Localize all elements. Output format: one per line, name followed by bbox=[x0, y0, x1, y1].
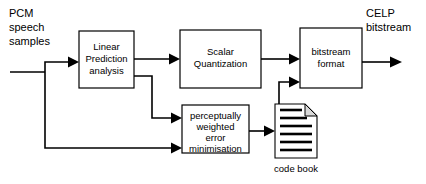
code-book-caption: code book bbox=[274, 163, 318, 174]
input-label: PCM speech samples bbox=[9, 7, 50, 47]
block-bitstream-format[interactable]: bitstream format bbox=[300, 28, 362, 88]
arrowhead-bitstream-out bbox=[390, 57, 402, 68]
block-pwem-line-3: error bbox=[205, 132, 225, 143]
block-pwem-line-2: weighted bbox=[195, 121, 234, 132]
input-label-line-3: samples bbox=[9, 35, 50, 47]
arrowhead-scalar-to-bitstream bbox=[289, 54, 300, 65]
connector-lp-to-pwem bbox=[134, 76, 171, 118]
block-pwem-line-1: perceptually bbox=[190, 110, 241, 121]
document-fold-corner-icon bbox=[305, 104, 317, 116]
block-scalar-quantization[interactable]: Scalar Quantization bbox=[180, 30, 261, 88]
block-scalar-quantization-line-1: Scalar bbox=[207, 46, 234, 57]
block-linear-prediction-analysis-line-2: Prediction bbox=[85, 53, 127, 64]
arrowhead-input-to-pwem bbox=[171, 143, 182, 154]
block-bitstream-format-line-1: bitstream bbox=[311, 46, 350, 57]
block-linear-prediction-analysis-line-3: analysis bbox=[89, 65, 124, 76]
block-pwem-line-4: minimisation bbox=[189, 143, 242, 154]
code-book-document[interactable] bbox=[275, 104, 317, 158]
output-label-line-1: CELP bbox=[366, 7, 395, 19]
arrowhead-lp-to-scalar bbox=[169, 54, 180, 65]
connector-codebook-to-bitstream bbox=[279, 82, 289, 104]
block-bitstream-format-line-2: format bbox=[318, 58, 345, 69]
block-linear-prediction-analysis[interactable]: Linear Prediction analysis bbox=[79, 31, 134, 88]
celp-encoder-diagram: Linear Prediction analysis Scalar Quanti… bbox=[0, 0, 426, 184]
block-linear-prediction-analysis-line-1: Linear bbox=[93, 41, 119, 52]
connector-input-to-lp bbox=[45, 62, 68, 72]
block-perceptually-weighted-error-minimisation[interactable]: perceptually weighted error minimisation bbox=[182, 105, 249, 154]
arrowhead-codebook-to-bitstream bbox=[289, 77, 300, 88]
input-label-line-1: PCM bbox=[9, 7, 33, 19]
arrowhead-input-to-lp bbox=[68, 57, 79, 68]
arrowhead-pwem-to-codebook bbox=[264, 126, 275, 137]
input-label-line-2: speech bbox=[9, 21, 44, 33]
output-label-line-2: bitstream bbox=[366, 21, 411, 33]
block-scalar-quantization-line-2: Quantization bbox=[194, 58, 247, 69]
output-label: CELP bitstream bbox=[366, 7, 411, 33]
diagram-canvas: Linear Prediction analysis Scalar Quanti… bbox=[0, 0, 426, 184]
arrowhead-lp-to-pwem bbox=[171, 113, 182, 124]
